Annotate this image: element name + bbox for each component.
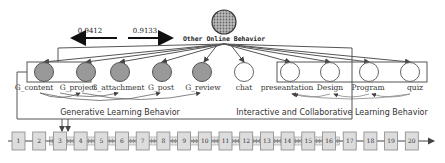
connector-lines: [44, 44, 410, 63]
node-label-g-post: G_post: [148, 83, 174, 92]
timeline-step-label: 12: [242, 137, 250, 144]
chat-node: [235, 63, 254, 82]
timeline-step-label: 19: [387, 137, 395, 144]
weight-left-label: 0.9412: [78, 27, 103, 35]
generative-nodes: [35, 63, 212, 82]
weight-right-label: 0.9133: [133, 27, 158, 35]
diagram-canvas: Other Online Behavior 0.9412 0.9133 G_co…: [0, 0, 445, 163]
timeline-step-label: 17: [346, 137, 354, 144]
timeline-step-label: 20: [408, 137, 416, 144]
timeline-step-label: 18: [367, 137, 375, 144]
interactive-arcs: [292, 94, 410, 99]
timeline-step-label: 15: [304, 137, 312, 144]
timeline-step-label: 14: [284, 137, 292, 144]
timeline-step-label: 10: [201, 137, 209, 144]
timeline-step-label: 9: [182, 137, 186, 144]
section-label-generative: Generative Learning Behavior: [60, 108, 180, 117]
other-online-behavior-node: [212, 10, 236, 34]
timeline-step-label: 5: [99, 137, 103, 144]
timeline-step-label: 8: [161, 137, 165, 144]
generative-arcs: [40, 93, 200, 101]
timeline-step-label: 13: [263, 137, 271, 144]
interactive-nodes: [281, 63, 420, 82]
node-label-g-attachment: G_attachment: [91, 83, 144, 92]
section-label-interactive: Interactive and Collaborative Learning B…: [236, 108, 428, 117]
node-label-design: Design: [317, 83, 344, 92]
timeline-step-label: 16: [325, 137, 333, 144]
node-label-presentation: preseantation: [261, 83, 314, 92]
timeline-step-label: 2: [37, 137, 41, 144]
node-label-quiz: quiz: [407, 83, 423, 92]
other-online-behavior-label: Other Online Behavior: [183, 35, 265, 43]
node-label-g-review: G_review: [185, 83, 221, 92]
node-label-program: Program: [351, 83, 384, 92]
timeline-step-label: 11: [222, 137, 230, 144]
timeline-step-label: 3: [58, 137, 62, 144]
timeline-step-label: 1: [17, 137, 21, 144]
node-label-chat: chat: [236, 83, 253, 92]
node-label-g-content: G_content: [15, 83, 54, 92]
timeline-step-label: 6: [120, 137, 124, 144]
timeline: 1234567891011121314151617181920: [8, 132, 434, 150]
timeline-step-label: 4: [79, 137, 83, 144]
timeline-step-label: 7: [141, 137, 145, 144]
